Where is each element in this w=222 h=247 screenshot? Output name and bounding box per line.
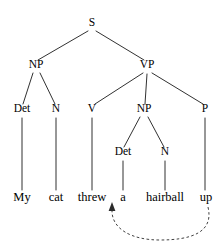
node-det-subject: Det <box>14 102 31 114</box>
branch-s-to-vp <box>96 31 144 60</box>
branch-vp-to-np-object <box>145 74 147 104</box>
node-vp: VP <box>140 58 155 70</box>
node-det-object: Det <box>115 145 132 157</box>
node-p: P <box>202 102 208 114</box>
node-v: V <box>88 102 97 114</box>
node-n-subject: N <box>52 102 61 114</box>
branch-np-object-to-n <box>148 117 164 147</box>
node-n-object: N <box>161 145 170 157</box>
node-np-object: NP <box>137 102 152 114</box>
branch-np-subject-to-n <box>40 73 55 104</box>
word-threw: threw <box>78 190 106 204</box>
branch-s-to-np-subject <box>38 31 88 60</box>
branch-np-object-to-det <box>124 117 140 147</box>
syntax-tree-canvas: S NP VP Det N V NP P Det N My cat threw … <box>0 0 222 247</box>
word-hairball: hairball <box>146 190 185 204</box>
word-a: a <box>120 190 126 204</box>
branch-vp-to-p <box>152 73 203 104</box>
word-my: My <box>13 190 31 204</box>
word-up: up <box>200 190 213 204</box>
branch-np-subject-to-det <box>23 73 33 104</box>
movement-arrow-head <box>109 202 116 211</box>
movement-arc <box>112 207 209 240</box>
word-cat: cat <box>49 190 64 204</box>
node-np-subject: NP <box>29 58 44 70</box>
node-s: S <box>89 16 95 28</box>
syntax-tree-figure: S NP VP Det N V NP P Det N My cat threw … <box>0 0 222 247</box>
branch-vp-to-v <box>95 73 143 104</box>
